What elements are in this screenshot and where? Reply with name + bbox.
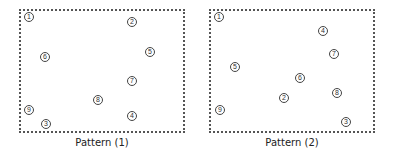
circled-number-marker: 5 [145,47,155,57]
circled-number-marker: 9 [24,105,34,115]
circled-number-marker: 2 [127,17,137,27]
pattern-1-box [19,9,185,133]
circled-number-marker: 6 [295,73,305,83]
circled-number-marker: 1 [214,12,224,22]
circled-number-marker: 9 [215,105,225,115]
circled-number-marker: 4 [318,26,328,36]
circled-number-marker: 8 [332,88,342,98]
circled-number-marker: 1 [24,12,34,22]
circled-number-marker: 7 [329,49,339,59]
circled-number-marker: 4 [127,111,137,121]
pattern-1-label: Pattern (1) [42,137,162,148]
circled-number-marker: 8 [93,95,103,105]
circled-number-marker: 6 [40,52,50,62]
circled-number-marker: 3 [341,117,351,127]
circled-number-marker: 3 [41,119,51,129]
circled-number-marker: 5 [230,62,240,72]
circled-number-marker: 2 [279,93,289,103]
circled-number-marker: 7 [127,76,137,86]
pattern-2-label: Pattern (2) [232,137,352,148]
